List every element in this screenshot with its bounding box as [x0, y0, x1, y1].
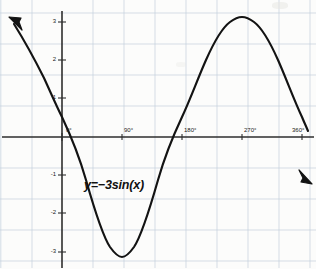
equation-annotation: y=−3sin(x) — [84, 178, 144, 192]
x-tick-label-0: 0° — [66, 127, 72, 133]
x-tick-label-360: 360° — [292, 127, 304, 133]
x-tick-label-270: 270° — [244, 127, 256, 133]
y-tick-label-minus-3: -3 — [44, 248, 56, 254]
x-tick-label-180: 180° — [184, 127, 196, 133]
x-tick-label-90: 90° — [124, 127, 133, 133]
curve-end-arrowhead — [299, 170, 312, 184]
y-tick-label-3: 3 — [46, 18, 56, 24]
y-tick-label-2: 2 — [46, 56, 56, 62]
y-tick-label-minus-2: -2 — [44, 209, 56, 215]
y-tick-label-minus-1: -1 — [44, 171, 56, 177]
plot-area — [0, 0, 316, 278]
y-tick-label-1: 1 — [46, 94, 56, 100]
axis-lines — [2, 11, 314, 268]
graph-figure: 0° 90° 180° 270° 360° 3 2 1 -1 -2 -3 y=−… — [0, 0, 316, 278]
